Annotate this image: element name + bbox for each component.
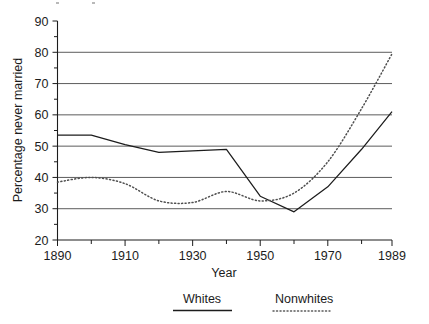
y-tick-label-30: 30 xyxy=(35,202,49,216)
scan-artifacts xyxy=(56,2,95,4)
gridlines xyxy=(58,52,393,208)
y-tick-label-50: 50 xyxy=(35,140,49,154)
x-tick-label-1910: 1910 xyxy=(111,249,139,263)
series-line-nonwhites xyxy=(58,54,393,204)
legend-item-whites: Whites xyxy=(173,292,232,311)
x-tick-label-1950: 1950 xyxy=(246,249,274,263)
x-axis-ticks xyxy=(58,240,393,246)
legend-item-nonwhites: Nonwhites xyxy=(273,292,333,311)
y-tick-label-90: 90 xyxy=(35,15,49,29)
x-tick-label-1989: 1989 xyxy=(378,249,406,263)
x-axis-tick-labels: 189019101930195019701989 xyxy=(44,249,406,263)
x-tick-label-1970: 1970 xyxy=(314,249,342,263)
series-line-whites xyxy=(58,112,393,212)
legend-label-whites: Whites xyxy=(183,292,221,306)
y-axis-title: Percentage never married xyxy=(11,58,25,203)
legend-label-nonwhites: Nonwhites xyxy=(275,292,333,306)
legend: Whites Nonwhites xyxy=(173,292,333,311)
chart-figure: 2030405060708090 18901910193019501970198… xyxy=(0,0,429,324)
x-axis-title: Year xyxy=(211,266,236,280)
x-tick-label-1890: 1890 xyxy=(44,249,72,263)
y-axis-ticks xyxy=(53,21,58,240)
y-axis-tick-labels: 2030405060708090 xyxy=(35,15,49,248)
y-tick-label-60: 60 xyxy=(35,108,49,122)
y-tick-label-20: 20 xyxy=(35,234,49,248)
y-tick-label-80: 80 xyxy=(35,46,49,60)
y-tick-label-70: 70 xyxy=(35,77,49,91)
line-chart-canvas: 2030405060708090 18901910193019501970198… xyxy=(0,0,429,324)
x-tick-label-1930: 1930 xyxy=(179,249,207,263)
y-tick-label-40: 40 xyxy=(35,171,49,185)
